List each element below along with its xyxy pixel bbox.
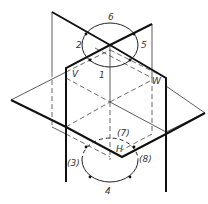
thick-edges xyxy=(11,12,205,192)
label-v: V xyxy=(72,69,79,79)
label-2: 2 xyxy=(76,40,82,50)
horizontal-plane-h xyxy=(11,50,205,132)
label-6: 6 xyxy=(108,12,114,22)
label-4: 4 xyxy=(105,186,111,196)
label-h: H xyxy=(116,144,123,154)
label-w: W xyxy=(152,76,162,86)
label-8: (8) xyxy=(139,154,152,164)
label-7: (7) xyxy=(117,128,130,138)
label-1: 1 xyxy=(99,70,105,80)
label-5: 5 xyxy=(141,40,147,50)
label-3: (3) xyxy=(67,158,80,168)
three-plane-projection-diagram: 6 2 5 1 V W H (7) (3) (8) 4 xyxy=(0,0,208,204)
